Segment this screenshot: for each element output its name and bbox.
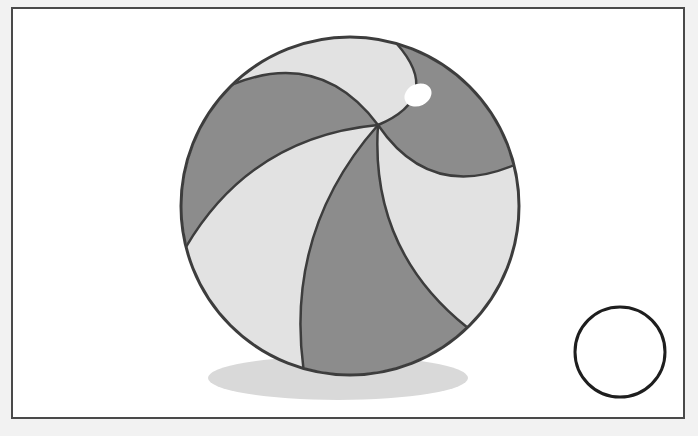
illustration-canvas [0, 0, 698, 436]
scene-svg [0, 0, 698, 436]
ball-segment-group [181, 37, 519, 375]
small-empty-circle[interactable] [575, 307, 665, 397]
beach-ball[interactable] [181, 37, 519, 375]
